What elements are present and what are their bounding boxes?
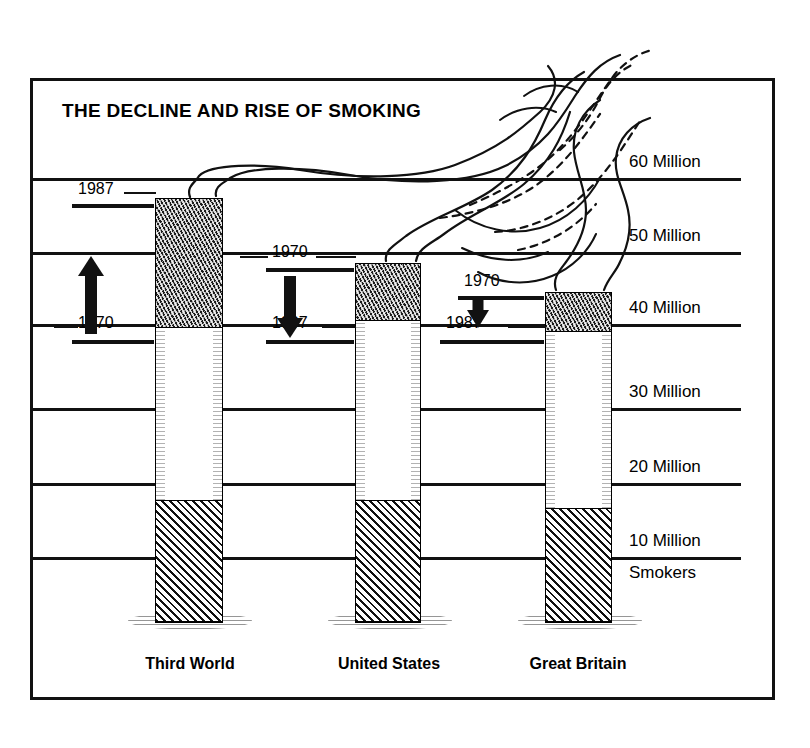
arrow-head-icon [467, 310, 489, 328]
category-label-united-states: United States [338, 655, 440, 673]
marker-leader-united-states-1970 [316, 256, 356, 258]
cigarette-paper-section [545, 332, 612, 508]
axis-tick-60: 60 Million [629, 152, 701, 172]
arrow-shaft [85, 274, 97, 334]
cigarette-tobacco-section [355, 263, 421, 321]
chart-title: THE DECLINE AND RISE OF SMOKING [62, 100, 421, 122]
axis-tick-10: 10 Million [629, 531, 701, 551]
axis-unit-caption: Smokers [629, 563, 696, 583]
trend-arrow-great-britain-down [466, 300, 490, 328]
marker-leader-united-states-1970-left [240, 256, 268, 258]
gridline-50 [33, 252, 741, 255]
cigarette-filter-section [545, 508, 612, 622]
arrow-shaft [473, 300, 484, 310]
cigarette-great-britain [545, 292, 612, 622]
axis-tick-30: 30 Million [629, 382, 701, 402]
cigarette-tobacco-section [155, 198, 223, 328]
axis-tick-40: 40 Million [629, 298, 701, 318]
category-label-great-britain: Great Britain [530, 655, 627, 673]
marker-bar-united-states-1987 [266, 340, 354, 344]
cigarette-lip-line [155, 622, 223, 623]
arrow-shaft [284, 276, 296, 320]
trend-arrow-third-world-up [78, 256, 104, 334]
marker-label-third-world-1987: 1987 [78, 180, 114, 198]
marker-leader-third-world-1987 [124, 192, 156, 194]
axis-tick-20: 20 Million [629, 457, 701, 477]
arrow-head-icon [78, 256, 104, 276]
marker-bar-third-world-1970 [72, 340, 154, 344]
arrow-head-icon [277, 318, 303, 338]
marker-label-great-britain-1970: 1970 [464, 272, 500, 290]
category-label-third-world: Third World [145, 655, 234, 673]
cigarette-lip-line [355, 622, 421, 623]
marker-leader-third-world-1970 [54, 326, 78, 328]
cigarette-filter-section [155, 500, 223, 622]
cigarette-united-states [355, 263, 421, 622]
marker-bar-great-britain-1987 [440, 340, 544, 344]
axis-tick-50: 50 Million [629, 226, 701, 246]
marker-bar-united-states-1970 [266, 268, 354, 272]
cigarette-third-world [155, 198, 223, 622]
cigarette-tobacco-section [545, 292, 612, 332]
marker-leader-great-britain-1987 [508, 326, 546, 328]
gridline-60 [33, 178, 741, 181]
cigarette-filter-section [355, 500, 421, 622]
marker-bar-third-world-1987 [72, 204, 154, 208]
cigarette-paper-section [155, 328, 223, 500]
marker-label-united-states-1970: 1970 [272, 243, 308, 261]
cigarette-lip-line [545, 622, 612, 623]
trend-arrow-united-states-down [277, 276, 303, 338]
cigarette-paper-section [355, 321, 421, 500]
marker-leader-united-states-1987 [322, 326, 356, 328]
